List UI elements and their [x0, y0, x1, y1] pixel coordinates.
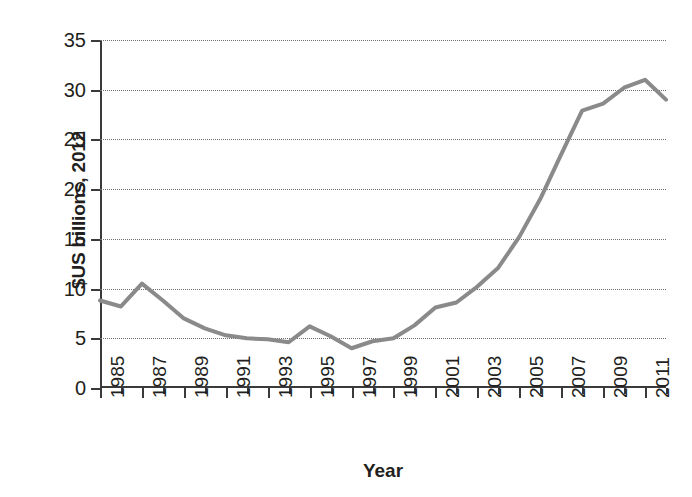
x-tick-major	[310, 388, 312, 398]
x-tick-label: 2011	[653, 357, 672, 398]
x-tick-label: 2001	[443, 356, 462, 398]
x-tick-label: 1985	[108, 356, 127, 398]
x-tick-label: 1997	[360, 356, 379, 398]
y-tick	[91, 90, 100, 92]
y-tick-label: 30	[16, 80, 86, 100]
y-tick	[91, 139, 100, 141]
x-tick-major	[226, 388, 228, 398]
x-tick-label: 2003	[485, 356, 504, 398]
x-tick-major	[393, 388, 395, 398]
x-tick-major	[184, 388, 186, 398]
x-tick-label: 2007	[569, 356, 588, 398]
y-tick-label: 35	[16, 30, 86, 50]
x-tick-label: 1991	[234, 356, 253, 398]
x-tick-label: 1989	[192, 356, 211, 398]
x-tick-major	[603, 388, 605, 398]
y-tick-label: 25	[16, 129, 86, 149]
x-tick-label: 1995	[318, 356, 337, 398]
x-tick-major	[268, 388, 270, 398]
data-series-line	[100, 40, 666, 388]
x-axis-title: Year	[100, 460, 666, 482]
y-tick	[91, 289, 100, 291]
x-tick-major	[477, 388, 479, 398]
x-tick-major	[435, 388, 437, 398]
y-tick-label: 0	[16, 378, 86, 398]
x-tick-label: 1993	[276, 356, 295, 398]
x-tick-major	[142, 388, 144, 398]
x-tick-major	[645, 388, 647, 398]
y-tick	[91, 189, 100, 191]
x-tick-major	[100, 388, 102, 398]
y-tick	[91, 388, 100, 390]
x-tick-label: 1987	[150, 356, 169, 398]
y-tick-label: 10	[16, 279, 86, 299]
y-tick-label: 20	[16, 179, 86, 199]
plot-area	[100, 40, 666, 388]
y-axis-title: $US billions, 2012	[68, 60, 90, 360]
x-tick-label: 1999	[401, 356, 420, 398]
y-tick	[91, 239, 100, 241]
y-tick	[91, 338, 100, 340]
x-tick-label: 2009	[611, 356, 630, 398]
x-tick-label: 2005	[527, 356, 546, 398]
x-tick-major	[561, 388, 563, 398]
y-tick-label: 15	[16, 229, 86, 249]
x-tick-major	[352, 388, 354, 398]
y-tick	[91, 40, 100, 42]
chart-figure: $US billions, 2012 05101520253035 198519…	[0, 0, 692, 497]
y-tick-label: 5	[16, 328, 86, 348]
x-tick-major	[519, 388, 521, 398]
